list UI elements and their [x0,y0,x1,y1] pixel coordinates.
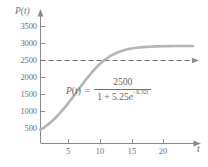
y-tick-label: 1500 [9,89,37,99]
y-tick-label: 3500 [9,21,37,31]
x-axis-label: t [197,144,200,154]
formula-equals: = [85,86,90,96]
asymptote-line [41,58,200,63]
y-tick-label: 2500 [9,55,37,65]
x-tick-label: 10 [90,146,110,156]
y-tick-label: 500 [9,123,37,133]
x-tick-marks [69,139,164,144]
x-tick-label: 5 [58,146,78,156]
y-tick-label: 3000 [9,38,37,48]
y-axis-label: P(t) [15,6,30,16]
y-tick-label: 1000 [9,106,37,116]
logistic-growth-figure: P(t) t 3500 3000 2500 2000 1500 1000 500… [0,0,208,167]
y-axis [38,9,44,143]
y-tick-label: 2000 [9,72,37,82]
x-tick-label: 15 [122,146,142,156]
x-tick-label: 20 [153,146,173,156]
formula-denominator: 1 + 5.25e−0.32t [94,91,151,103]
y-tick-marks [41,27,46,129]
formula-fraction: 2500 1 + 5.25e−0.32t [94,78,151,103]
formula-lhs: P(t) [66,86,81,96]
logistic-formula-annotation: P(t) = 2500 1 + 5.25e−0.32t [66,78,151,103]
formula-numerator: 2500 [110,78,135,88]
